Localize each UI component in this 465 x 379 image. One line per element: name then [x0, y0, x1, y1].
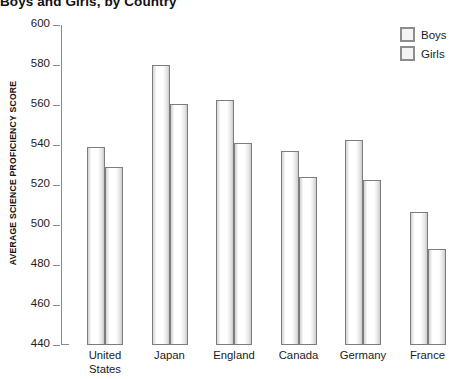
y-axis-tick-label: 600 [31, 17, 50, 29]
legend-swatch-icon [400, 27, 415, 42]
bar-boys [410, 212, 428, 345]
y-axis-tick-mark [53, 265, 60, 266]
y-axis-tick-label: 560 [31, 97, 50, 109]
x-axis-category-label-line: States [62, 363, 148, 377]
bar-girls [105, 167, 123, 345]
bar-boys [152, 65, 170, 345]
legend-item-label: Girls [421, 48, 445, 60]
y-axis-tick-mark [53, 145, 60, 146]
bar-boys [345, 140, 363, 345]
bar-girls [170, 104, 188, 345]
bar-group [345, 25, 381, 345]
bar-girls [363, 180, 381, 345]
y-axis-tick-mark [53, 25, 60, 26]
y-axis-tick-mark [53, 345, 60, 346]
bar-girls [428, 249, 446, 345]
y-axis-tick-label: 440 [31, 337, 50, 349]
y-axis-tick-label: 460 [31, 297, 50, 309]
y-axis-tick-mark [53, 105, 60, 106]
chart-legend: BoysGirls [400, 25, 447, 63]
bar-boys [216, 100, 234, 345]
bar-group [281, 25, 317, 345]
bar-boys [281, 151, 299, 345]
chart-title: Boys and Girls, by Country [0, 0, 177, 9]
y-axis-tick-mark [53, 225, 60, 226]
bar-group [87, 25, 123, 345]
bar-girls [234, 143, 252, 345]
bar-girls [299, 177, 317, 345]
y-axis-tick-mark [53, 65, 60, 66]
legend-item-girls[interactable]: Girls [400, 44, 447, 63]
bar-boys [87, 147, 105, 345]
y-axis-tick-mark [53, 185, 60, 186]
x-axis-category-label: France [385, 349, 465, 363]
y-axis-tick-label: 480 [31, 257, 50, 269]
legend-swatch-icon [400, 46, 415, 61]
bar-group [216, 25, 252, 345]
legend-item-label: Boys [421, 29, 447, 41]
y-axis-title: AVERAGE SCIENCE PROFICIENCY SCORE [8, 73, 18, 273]
y-axis-tick-label: 520 [31, 177, 50, 189]
y-axis-tick-mark [53, 305, 60, 306]
x-axis-category-label-line: France [385, 349, 465, 363]
legend-item-boys[interactable]: Boys [400, 25, 447, 44]
bar-group [152, 25, 188, 345]
y-axis-tick-label: 540 [31, 137, 50, 149]
plot-area: 600580560540520500480460440 UnitedStates… [61, 25, 457, 345]
y-axis-tick-label: 500 [31, 217, 50, 229]
y-axis-tick-label: 580 [31, 57, 50, 69]
bar-group [410, 25, 446, 345]
